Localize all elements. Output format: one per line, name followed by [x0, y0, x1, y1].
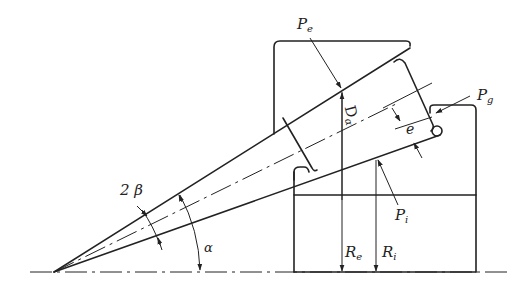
pi-arrow: [378, 160, 398, 205]
label-pe: Pe: [297, 17, 313, 34]
diagram-canvas: [0, 0, 532, 294]
housing-block: [430, 105, 476, 272]
label-re: Re: [345, 245, 362, 262]
label-pg: Pg: [477, 88, 494, 105]
label-alpha: α: [204, 241, 213, 254]
e-arrow-bottom: [414, 143, 422, 158]
label-pi: Pi: [395, 208, 408, 225]
label-e: e: [406, 122, 414, 136]
two-beta-arrow-bottom: [158, 238, 162, 250]
pe-arrow: [310, 38, 341, 88]
snap-ring: [432, 126, 442, 136]
label-two-beta: 2 β: [120, 183, 143, 198]
d-alpha-extension: [383, 83, 432, 108]
bearing-diagram: Pe Pg Pi Re Ri Dα e 2 β α: [0, 0, 532, 294]
alpha-arc: [180, 195, 200, 270]
two-beta-arrow-top: [137, 206, 147, 216]
label-ri: Ri: [382, 245, 397, 262]
e-arrow-top: [392, 108, 400, 121]
inner-ring-rib: [294, 167, 309, 180]
cone-lines: [54, 48, 440, 272]
